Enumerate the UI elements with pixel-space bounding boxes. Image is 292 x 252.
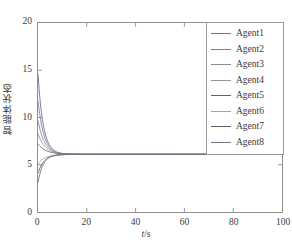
y-tick-label: 20	[8, 17, 32, 27]
series-line	[38, 154, 282, 173]
x-tick-label: 0	[35, 218, 40, 228]
y-axis-title: 智能体状态	[1, 82, 15, 135]
legend-item-label: Agent6	[236, 107, 264, 117]
legend-line-icon	[211, 80, 231, 81]
y-tick-label: 15	[8, 65, 32, 75]
x-tick-label: 100	[276, 218, 290, 228]
legend-item[interactable]: Agent1	[207, 26, 283, 42]
legend-line-icon	[211, 95, 231, 96]
figure-canvas: 智能体状态 05101520 020406080100 t/s Agent1Ag…	[0, 0, 292, 252]
series-line	[38, 154, 282, 163]
legend-line-icon	[211, 142, 231, 143]
x-tick-label: 80	[229, 218, 239, 228]
legend-item[interactable]: Agent2	[207, 42, 283, 58]
legend-line-icon	[211, 126, 231, 127]
legend-item-label: Agent4	[236, 76, 264, 86]
legend-item-label: Agent2	[236, 45, 264, 55]
legend-item[interactable]: Agent6	[207, 104, 283, 120]
x-tick-label: 40	[131, 218, 141, 228]
x-tick-label: 20	[81, 218, 91, 228]
legend-item[interactable]: Agent7	[207, 119, 283, 135]
legend-item[interactable]: Agent4	[207, 73, 283, 89]
legend-line-icon	[211, 111, 231, 112]
legend-item[interactable]: Agent8	[207, 135, 283, 151]
x-axis-title: t/s	[0, 229, 292, 239]
legend-item[interactable]: Agent3	[207, 57, 283, 73]
x-axis-title-unit: /s	[144, 229, 150, 239]
legend-line-icon	[211, 64, 231, 65]
y-tick-label: 0	[8, 208, 32, 218]
x-tick-label: 60	[180, 218, 190, 228]
legend-line-icon	[211, 49, 231, 50]
legend-item-label: Agent1	[236, 29, 264, 39]
legend-line-icon	[211, 33, 231, 34]
legend-item[interactable]: Agent5	[207, 88, 283, 104]
legend-item-label: Agent8	[236, 138, 264, 148]
legend-item-label: Agent7	[236, 122, 264, 132]
y-tick-label: 10	[8, 113, 32, 123]
series-line	[38, 154, 282, 182]
legend-item-label: Agent5	[236, 91, 264, 101]
y-tick-label: 5	[8, 161, 32, 171]
legend-box: Agent1Agent2Agent3Agent4Agent5Agent6Agen…	[206, 22, 284, 155]
legend-item-label: Agent3	[236, 60, 264, 70]
